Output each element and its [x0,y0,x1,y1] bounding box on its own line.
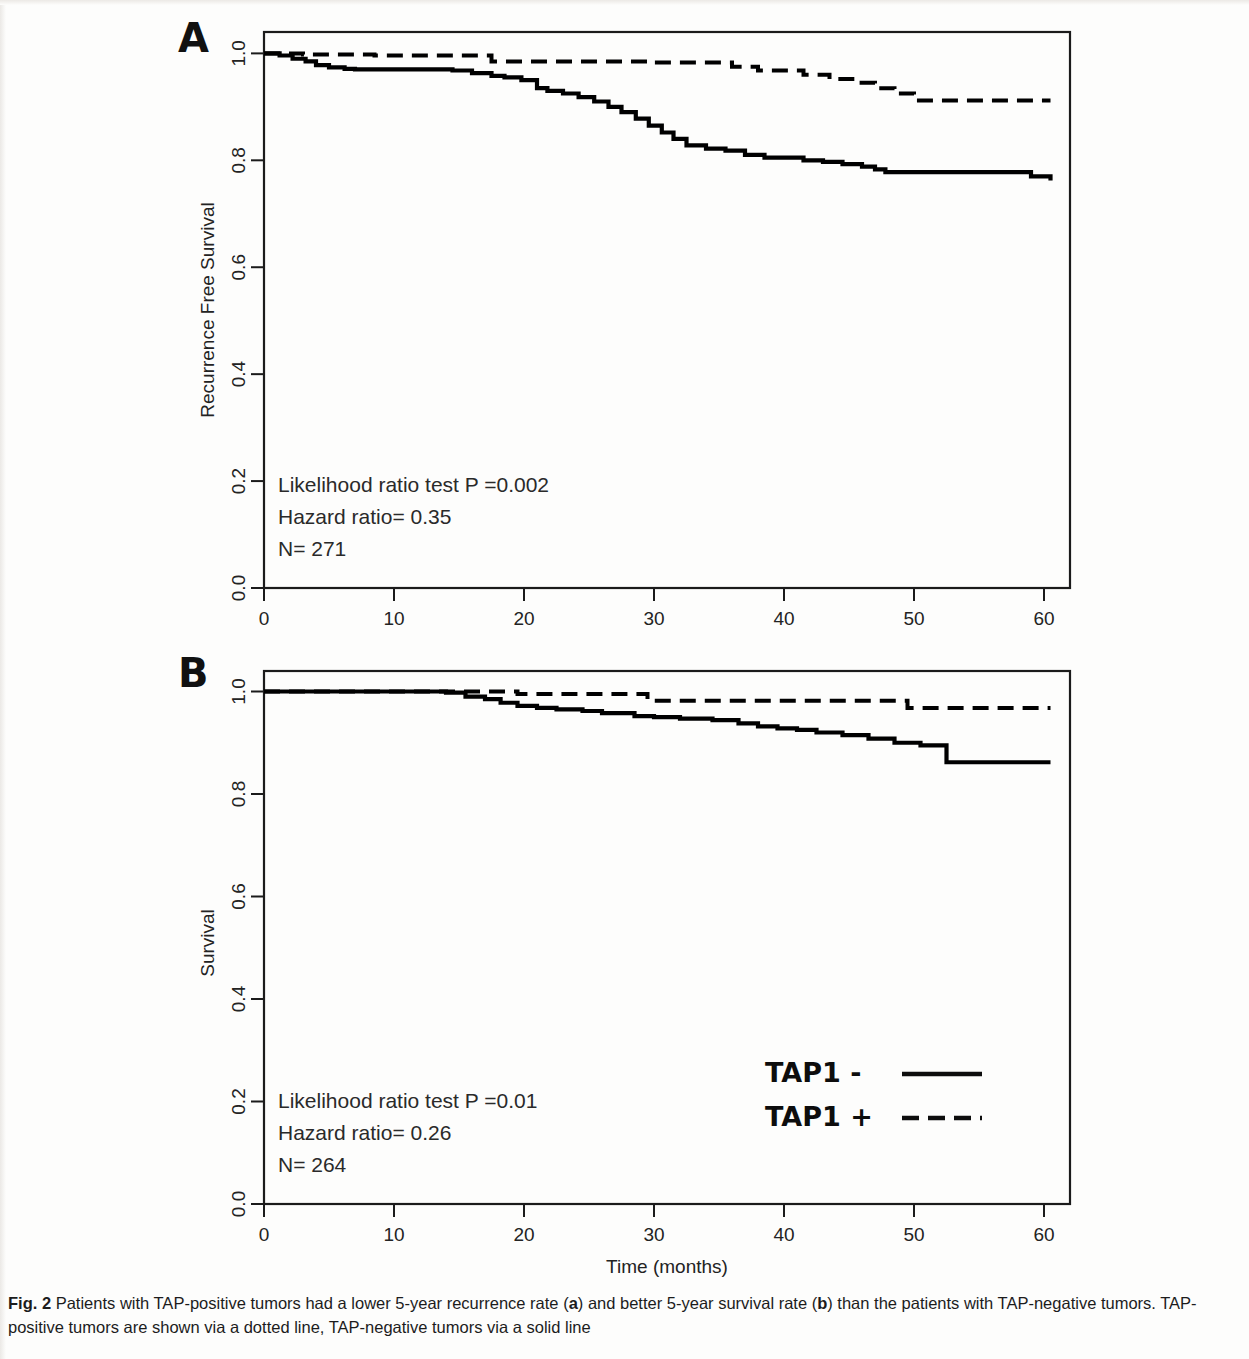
figure-number: Fig. 2 [8,1294,51,1312]
x-tick-label: 20 [513,1224,534,1245]
y-tick-label: 0.4 [228,985,249,1012]
panel-a-annotation-n: N= 271 [278,537,346,560]
y-tick-label: 0.6 [228,254,249,280]
panel-b: B 0.00.20.40.60.81.0 0102030405060 Survi… [0,648,1120,1288]
panel-a-x-ticks: 0102030405060 [259,588,1055,629]
y-tick-label: 0.4 [228,361,249,388]
x-tick-label: 0 [259,1224,270,1245]
curve-tap1 [264,53,1051,180]
y-tick-label: 0.2 [228,468,249,494]
x-tick-label: 10 [383,608,404,629]
x-tick-label: 30 [643,1224,664,1245]
x-tick-label: 50 [903,608,924,629]
x-tick-label: 60 [1033,1224,1054,1245]
panel-b-y-ticks: 0.00.20.40.60.81.0 [228,678,264,1217]
caption-marker-a: a [569,1294,578,1312]
y-tick-label: 0.0 [228,1191,249,1217]
curve-tap1 [264,53,1051,100]
panel-a: A 0.00.20.40.60.81.0 0102030405060 Recur… [0,0,1120,650]
panel-a-letter: A [178,15,209,61]
caption-marker-b: b [817,1294,827,1312]
panel-b-annotation-hazard: Hazard ratio= 0.26 [278,1121,451,1144]
figure-page: A 0.00.20.40.60.81.0 0102030405060 Recur… [0,0,1249,1359]
panel-a-annotation-likelihood: Likelihood ratio test P =0.002 [278,473,549,496]
panel-a-y-ticks: 0.00.20.40.60.81.0 [228,40,264,601]
y-tick-label: 1.0 [228,678,249,704]
panel-b-plot: 0.00.20.40.60.81.0 0102030405060 Surviva… [0,648,1120,1288]
figure-caption: Fig. 2 Patients with TAP-positive tumors… [8,1292,1240,1340]
x-tick-label: 10 [383,1224,404,1245]
x-tick-label: 60 [1033,608,1054,629]
curve-tap1 [264,692,1051,708]
panel-a-plot: 0.00.20.40.60.81.0 0102030405060 Recurre… [0,0,1120,650]
x-tick-label: 40 [773,608,794,629]
x-tick-label: 20 [513,608,534,629]
x-tick-label: 40 [773,1224,794,1245]
x-axis-title: Time (months) [606,1256,728,1277]
y-tick-label: 0.6 [228,883,249,909]
panel-a-y-axis-title: Recurrence Free Survival [197,202,218,417]
panel-a-curves [264,53,1051,180]
legend-label-tap1-positive: TAP1 + [765,1101,873,1132]
panel-b-annotation-n: N= 264 [278,1153,347,1176]
y-tick-label: 0.8 [228,781,249,807]
y-tick-label: 1.0 [228,40,249,66]
panel-b-y-axis-title: Survival [197,909,218,977]
panel-b-letter: B [178,650,209,696]
x-tick-label: 30 [643,608,664,629]
panel-a-annotation-hazard: Hazard ratio= 0.35 [278,505,451,528]
figure-caption-text: Patients with TAP-positive tumors had a … [8,1294,1197,1336]
legend: TAP1 - TAP1 + [765,1057,982,1132]
panel-b-curves [264,692,1051,763]
y-tick-label: 0.2 [228,1088,249,1114]
y-tick-label: 0.0 [228,575,249,601]
legend-label-tap1-negative: TAP1 - [765,1057,861,1088]
x-tick-label: 50 [903,1224,924,1245]
panel-b-annotation-likelihood: Likelihood ratio test P =0.01 [278,1089,537,1112]
x-tick-label: 0 [259,608,270,629]
y-tick-label: 0.8 [228,147,249,173]
panel-b-x-ticks: 0102030405060 [259,1204,1055,1245]
